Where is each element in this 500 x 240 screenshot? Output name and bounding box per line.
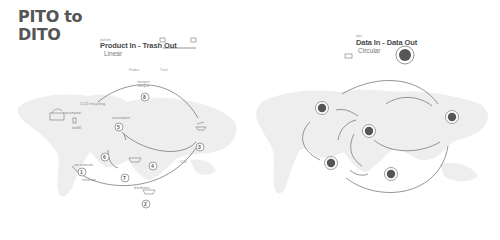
label-landfill: landfill — [72, 126, 81, 130]
step-4: 4 — [151, 163, 154, 169]
step-1: 1 — [80, 169, 83, 175]
label-distribution: distribution — [134, 186, 149, 190]
label-consumption: consumption — [63, 111, 81, 115]
left-subtitle: Linear — [104, 50, 122, 57]
step-5: 5 — [117, 124, 120, 130]
axis-end-label: Trash — [160, 68, 168, 72]
ship-icon-3 — [143, 190, 155, 194]
label-extraction: extraction — [82, 178, 96, 182]
step-3: 3 — [198, 144, 201, 150]
label-co2: CO2 — [180, 160, 187, 164]
left-heading: Product In - Trash Out — [100, 41, 177, 50]
trash-icon — [191, 38, 196, 42]
label-co2-recycling: CO2 recycling — [80, 101, 105, 106]
label-raw-materials: raw materials — [74, 163, 93, 167]
step-8: 8 — [143, 94, 146, 100]
right-heading: Data In - Data Out — [356, 38, 417, 47]
right-subtitle: Circular — [358, 47, 380, 54]
step-6: 6 — [103, 154, 106, 160]
step-2: 2 — [144, 201, 147, 207]
label-step5: consumption — [112, 116, 130, 120]
axis-start-label: Product — [129, 68, 139, 72]
label-recycle: Recycle — [138, 84, 149, 88]
data-icon — [345, 54, 352, 58]
step-7: 7 — [123, 175, 126, 181]
world-map-right — [256, 90, 488, 194]
